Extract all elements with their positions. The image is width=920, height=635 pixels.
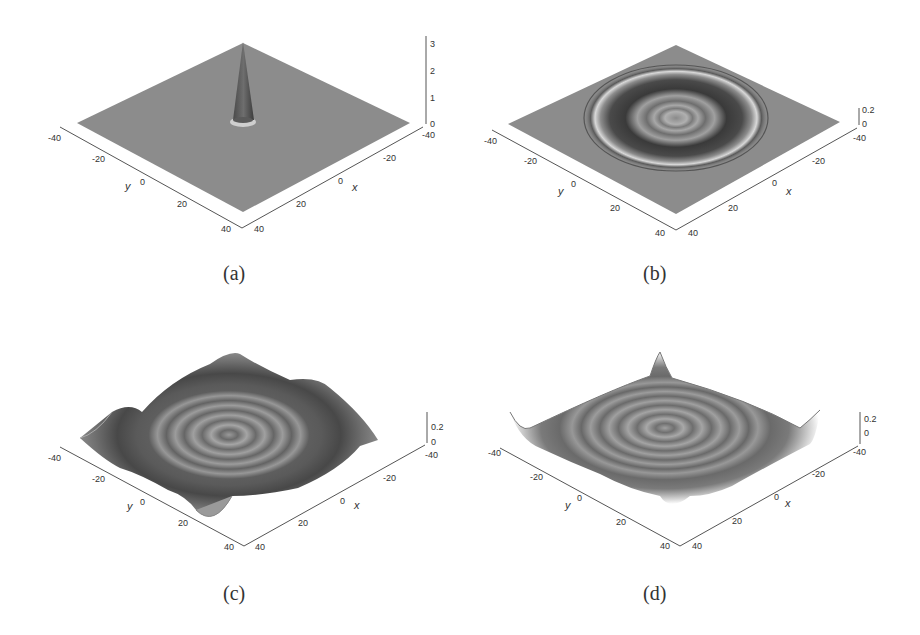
svg-text:20: 20: [728, 203, 738, 213]
svg-text:0.2: 0.2: [864, 414, 877, 424]
svg-text:-20: -20: [383, 473, 396, 483]
svg-text:20: 20: [732, 516, 742, 526]
svg-text:x: x: [784, 497, 791, 509]
svg-text:20: 20: [610, 203, 620, 213]
svg-text:3: 3: [430, 39, 435, 49]
svg-text:-20: -20: [383, 153, 396, 163]
svg-text:y: y: [126, 500, 134, 512]
svg-text:20: 20: [177, 199, 187, 209]
svg-text:-40: -40: [425, 450, 438, 460]
svg-text:-20: -20: [92, 474, 105, 484]
svg-text:-40: -40: [422, 130, 435, 140]
svg-text:40: 40: [655, 228, 665, 238]
svg-text:0: 0: [338, 176, 343, 186]
svg-text:y: y: [124, 180, 132, 192]
svg-text:x: x: [351, 181, 358, 193]
surface-plot-a: -40 -20 0 20 40 y 40 20 0 -20 -40 x 0 1 …: [0, 0, 460, 260]
svg-text:y: y: [564, 499, 572, 511]
svg-text:y: y: [557, 185, 565, 197]
svg-text:1: 1: [430, 93, 435, 103]
svg-text:-40: -40: [484, 136, 497, 146]
svg-text:0: 0: [774, 492, 779, 502]
svg-text:0: 0: [340, 496, 345, 506]
svg-text:0: 0: [430, 119, 435, 129]
surface-plot-b: -40 -20 0 20 40 y 40 20 0 -20 -40 x 0 0.…: [460, 0, 920, 260]
surface-plot-d: -40 -20 0 20 40 y 40 20 0 -20 -40 x 0 0.…: [460, 320, 920, 580]
svg-text:40: 40: [224, 542, 234, 552]
svg-text:-40: -40: [48, 133, 61, 143]
svg-text:0.2: 0.2: [431, 422, 444, 432]
ring-wave: [584, 65, 768, 171]
panel-c: -40 -20 0 20 40 y 40 20 0 -20 -40 x 0 0.…: [0, 320, 460, 580]
svg-text:20: 20: [298, 518, 308, 528]
svg-text:20: 20: [296, 199, 306, 209]
svg-text:0.2: 0.2: [862, 105, 875, 115]
caption-a: (a): [223, 262, 245, 285]
svg-text:40: 40: [692, 541, 702, 551]
svg-text:-20: -20: [812, 156, 825, 166]
panel-a: -40 -20 0 20 40 y 40 20 0 -20 -40 x 0 1 …: [0, 0, 460, 260]
caption-c: (c): [223, 582, 245, 605]
svg-text:0: 0: [864, 428, 869, 438]
svg-text:-40: -40: [488, 448, 501, 458]
svg-text:0: 0: [431, 437, 436, 447]
svg-text:-40: -40: [853, 133, 866, 143]
svg-text:40: 40: [221, 224, 231, 234]
svg-text:-20: -20: [524, 156, 537, 166]
svg-text:0: 0: [140, 177, 145, 187]
svg-text:-40: -40: [853, 447, 866, 457]
svg-text:40: 40: [254, 224, 264, 234]
surface-wave: [510, 352, 820, 504]
svg-text:0: 0: [577, 493, 582, 503]
svg-text:40: 40: [688, 228, 698, 238]
panel-b: -40 -20 0 20 40 y 40 20 0 -20 -40 x 0 0.…: [460, 0, 920, 260]
svg-text:-20: -20: [530, 472, 543, 482]
svg-text:20: 20: [616, 517, 626, 527]
surface-plot-c: -40 -20 0 20 40 y 40 20 0 -20 -40 x 0 0.…: [0, 320, 460, 580]
svg-text:0: 0: [571, 179, 576, 189]
caption-b: (b): [643, 262, 666, 285]
svg-text:x: x: [785, 185, 792, 197]
svg-text:0: 0: [862, 119, 867, 129]
svg-text:x: x: [353, 499, 360, 511]
caption-d: (d): [643, 582, 666, 605]
panel-d: -40 -20 0 20 40 y 40 20 0 -20 -40 x 0 0.…: [460, 320, 920, 580]
svg-text:0: 0: [140, 497, 145, 507]
svg-text:-20: -20: [92, 154, 105, 164]
svg-text:40: 40: [255, 542, 265, 552]
svg-text:2: 2: [430, 66, 435, 76]
svg-text:-20: -20: [812, 469, 825, 479]
surface-wave: [80, 353, 378, 516]
svg-text:20: 20: [178, 518, 188, 528]
svg-text:40: 40: [660, 541, 670, 551]
svg-text:0: 0: [772, 178, 777, 188]
svg-text:-40: -40: [48, 453, 61, 463]
